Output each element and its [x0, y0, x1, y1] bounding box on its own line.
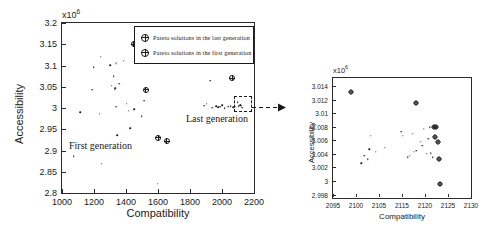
- x-tick-mark: [158, 189, 159, 193]
- x-tick-label: 2095: [326, 202, 340, 209]
- legend-item-last-generation: Pareto solutions in the last generation: [138, 30, 250, 45]
- x-tick-mark: [190, 189, 191, 193]
- x-tick-mark: [379, 194, 380, 197]
- legend-label-last-generation: Pareto solutions in the last generation: [153, 34, 250, 41]
- callout-arrow-icon: [252, 103, 288, 112]
- x-tick-mark: [126, 189, 127, 193]
- crossed-circle-icon: [141, 34, 149, 42]
- x-tick-label: 1400: [116, 197, 136, 207]
- x-tick-mark: [254, 189, 255, 193]
- x-tick-mark: [471, 194, 472, 197]
- x-tick-mark: [448, 194, 449, 197]
- x-tick-mark: [356, 194, 357, 197]
- x-tick-label: 1800: [180, 197, 200, 207]
- main-scatter-plot: x106 2.82.852.92.9533.053.13.153.2 10001…: [0, 0, 290, 243]
- inset-scatter-plot: x106 2.99833.0023.0043.0063.0083.013.012…: [290, 58, 489, 243]
- x-tick-label: 1000: [52, 197, 72, 207]
- legend: Pareto solutions in the last generation …: [134, 26, 254, 64]
- x-tick-mark: [402, 194, 403, 197]
- x-tick-label: 1200: [84, 197, 104, 207]
- annotation-last-generation: Last generation: [186, 113, 248, 124]
- main-y-axis-title: Accessibility: [13, 64, 25, 164]
- x-tick-label: 2105: [372, 202, 386, 209]
- x-tick-mark: [222, 189, 223, 193]
- x-tick-label: 1600: [148, 197, 168, 207]
- x-tick-label: 2120: [418, 202, 432, 209]
- x-tick-label: 2125: [441, 202, 455, 209]
- annotation-first-generation: First generation: [69, 140, 132, 151]
- x-tick-label: 2200: [244, 197, 264, 207]
- x-tick-mark: [425, 194, 426, 197]
- inset-x-axis-title: Compatibility: [379, 212, 425, 221]
- legend-label-first-generation: Pareto solutions in the first generation: [153, 49, 251, 56]
- x-tick-label: 2100: [349, 202, 363, 209]
- x-tick-mark: [62, 189, 63, 193]
- x-tick-label: 2115: [395, 202, 409, 209]
- legend-item-first-generation: Pareto solutions in the first generation: [138, 45, 250, 60]
- x-tick-mark: [94, 189, 95, 193]
- x-tick-label: 2130: [464, 202, 478, 209]
- main-x-axis-title: Compatibility: [127, 207, 190, 219]
- x-tick-mark: [333, 194, 334, 197]
- cluster-callout-box: [234, 96, 252, 112]
- x-tick-label: 2000: [212, 197, 232, 207]
- figure-container: x106 2.82.852.92.9533.053.13.153.2 10001…: [0, 0, 489, 243]
- inset-y-axis-title: Accessibility: [307, 108, 316, 178]
- crossed-circle-icon: [141, 49, 149, 57]
